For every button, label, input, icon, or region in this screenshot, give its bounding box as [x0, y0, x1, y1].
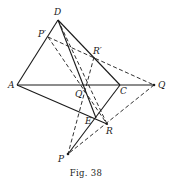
line-DR — [58, 20, 107, 124]
label-P: P — [57, 154, 65, 164]
label-Q-prime: Q′ — [75, 89, 84, 99]
figure-caption: Fig. 38 — [70, 168, 102, 178]
label-R-prime: R′ — [92, 46, 102, 56]
line-DE — [58, 20, 96, 118]
label-C: C — [120, 86, 127, 96]
point-Q-dot — [153, 84, 156, 87]
label-Q: Q — [158, 80, 166, 90]
label-R: R — [105, 126, 113, 136]
point-R-dot — [106, 123, 108, 125]
label-E: E — [84, 116, 92, 126]
point-P-dot — [67, 153, 70, 156]
line-DC — [58, 20, 120, 85]
geometry-figure: D P′ R′ A Q′ C Q E R P Fig. 38 — [0, 0, 171, 183]
label-P-prime: P′ — [37, 29, 46, 39]
label-A: A — [7, 80, 15, 90]
label-D: D — [53, 7, 61, 17]
